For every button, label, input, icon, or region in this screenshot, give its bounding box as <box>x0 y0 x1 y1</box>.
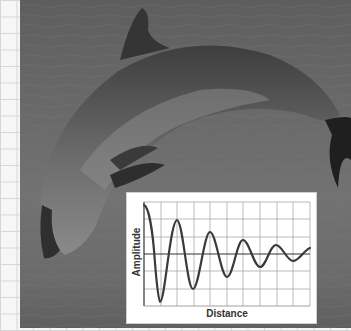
amplitude-chart: Amplitude Distance <box>127 193 316 323</box>
x-axis-label: Distance <box>144 308 310 320</box>
y-axis-label: Amplitude <box>130 222 144 282</box>
chart-plot <box>127 193 316 323</box>
